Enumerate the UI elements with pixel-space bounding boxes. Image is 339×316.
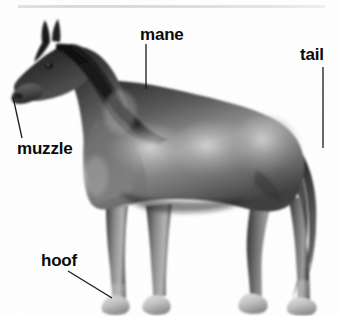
label-muzzle: muzzle (17, 140, 72, 157)
label-mane: mane (140, 26, 184, 43)
label-tail: tail (300, 46, 324, 63)
label-hoof: hoof (41, 252, 77, 269)
horse-anatomy-figure: mane tail muzzle hoof (0, 0, 339, 316)
